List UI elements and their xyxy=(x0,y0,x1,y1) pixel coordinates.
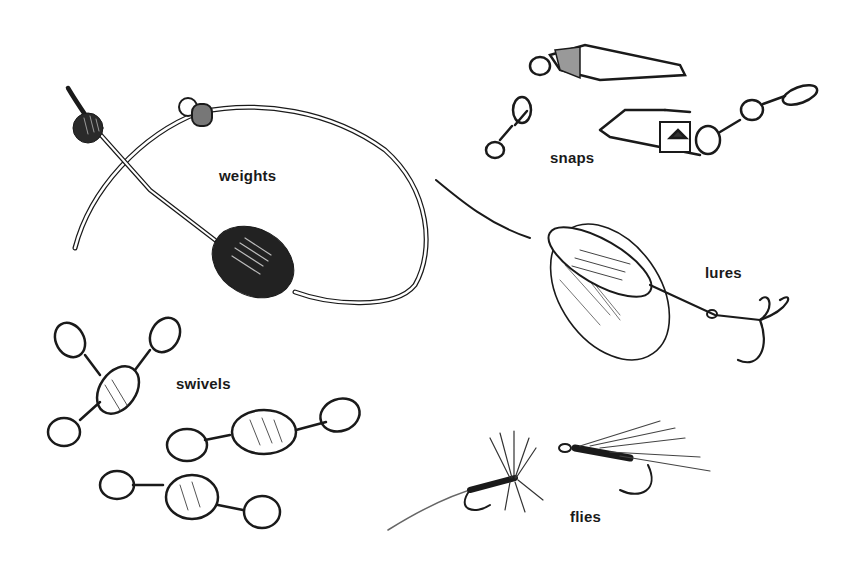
swivels-drawing xyxy=(48,312,364,528)
weights-drawing xyxy=(68,88,426,312)
snaps-drawing xyxy=(486,45,820,158)
label-snaps: snaps xyxy=(550,149,594,166)
tackle-illustration xyxy=(0,0,860,568)
label-swivels: swivels xyxy=(176,375,231,392)
label-flies: flies xyxy=(570,508,601,525)
flies-drawing xyxy=(388,421,710,530)
label-lures: lures xyxy=(705,264,742,281)
lures-drawing xyxy=(436,180,788,382)
label-weights: weights xyxy=(219,167,276,184)
